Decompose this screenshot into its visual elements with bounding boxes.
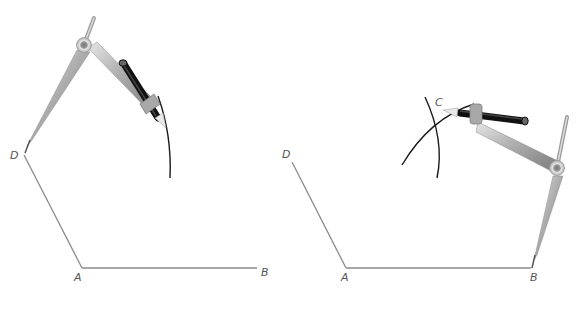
label-B: B (530, 271, 538, 284)
segment-DA (24, 155, 82, 268)
label-A: A (340, 271, 349, 284)
geometry-construction-figure: D A B D A B C (0, 0, 580, 315)
label-B: B (261, 266, 269, 279)
label-D: D (10, 149, 18, 162)
compass-icon (25, 18, 166, 153)
construction-arc (158, 96, 170, 178)
segment-DA (292, 162, 346, 268)
label-D: D (282, 148, 290, 161)
compass-icon (443, 104, 567, 268)
arc-from-D (425, 97, 439, 178)
label-C: C (435, 96, 443, 109)
right-panel: D A B C (282, 96, 567, 284)
left-panel: D A B (10, 18, 269, 284)
label-A: A (73, 271, 82, 284)
